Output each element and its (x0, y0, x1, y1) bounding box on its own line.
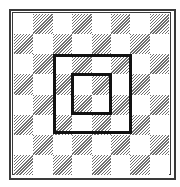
hatched-cell (33, 135, 52, 155)
light-cell (150, 74, 169, 94)
hatched-cell (130, 155, 149, 175)
hatched-cell (130, 115, 149, 135)
light-cell (72, 155, 91, 175)
light-cell (53, 14, 72, 34)
hatched-cell (33, 95, 52, 115)
hatched-cell (150, 95, 169, 115)
hatched-cell (92, 155, 111, 175)
light-cell (150, 34, 169, 54)
light-cell (33, 115, 52, 135)
light-cell (14, 95, 33, 115)
hatched-cell (33, 54, 52, 74)
light-cell (33, 155, 52, 175)
light-cell (92, 14, 111, 34)
light-cell (111, 34, 130, 54)
light-cell (130, 135, 149, 155)
hatched-cell (111, 14, 130, 34)
light-cell (130, 14, 149, 34)
hatched-cell (14, 34, 33, 54)
hatched-cell (14, 74, 33, 94)
light-cell (53, 135, 72, 155)
light-cell (111, 155, 130, 175)
light-cell (150, 155, 169, 175)
light-cell (130, 54, 149, 74)
hatched-cell (14, 155, 33, 175)
hatched-cell (150, 135, 169, 155)
hatched-cell (150, 54, 169, 74)
hatched-cell (130, 34, 149, 54)
hatched-cell (92, 34, 111, 54)
light-cell (150, 115, 169, 135)
hatched-cell (111, 135, 130, 155)
hatched-cell (72, 135, 91, 155)
inner-square (71, 73, 112, 115)
hatched-cell (72, 14, 91, 34)
light-cell (72, 34, 91, 54)
light-cell (33, 74, 52, 94)
hatched-cell (150, 14, 169, 34)
hatched-cell (130, 74, 149, 94)
hatched-cell (14, 115, 33, 135)
light-cell (130, 95, 149, 115)
hatched-cell (53, 34, 72, 54)
light-cell (14, 14, 33, 34)
light-cell (92, 135, 111, 155)
light-cell (14, 135, 33, 155)
hatched-cell (33, 14, 52, 34)
light-cell (14, 54, 33, 74)
hatched-cell (53, 155, 72, 175)
light-cell (33, 34, 52, 54)
